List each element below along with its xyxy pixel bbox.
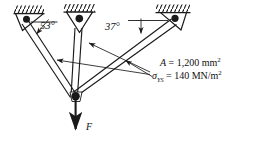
area-property-label: A = 1,200 mm2 xyxy=(160,58,221,68)
pin-right xyxy=(171,15,178,22)
force-label: F xyxy=(86,122,92,132)
sigma-subscript: YS xyxy=(157,76,164,83)
leader-to-middle-member xyxy=(89,43,150,72)
pin-middle xyxy=(76,15,84,23)
sigma-value: 140 xyxy=(174,70,189,81)
sigma-unit: MN/m xyxy=(192,70,219,81)
angle-label-left: 53° xyxy=(40,21,55,32)
support-left-hatching xyxy=(14,6,45,14)
support-right-hatching xyxy=(156,5,191,13)
area-symbol: A xyxy=(160,57,166,68)
support-right xyxy=(156,5,191,31)
area-equals: = xyxy=(169,57,175,68)
support-middle-hatching xyxy=(64,4,96,12)
sigma-equals: = xyxy=(166,70,172,81)
leader-to-right-member xyxy=(126,61,153,77)
yield-stress-property-label: σYS = 140 MN/m2 xyxy=(152,71,222,81)
sigma-exponent: 2 xyxy=(218,69,221,76)
area-unit: mm xyxy=(202,57,218,68)
support-middle xyxy=(64,4,96,33)
area-exponent: 2 xyxy=(217,56,220,63)
area-value: 1,200 xyxy=(177,57,200,68)
angle-label-right: 37° xyxy=(105,22,120,33)
figure-canvas: 53° 37° A = 1,200 mm2 σYS = 140 MN/m2 F xyxy=(0,0,257,142)
member-left xyxy=(22,21,76,98)
